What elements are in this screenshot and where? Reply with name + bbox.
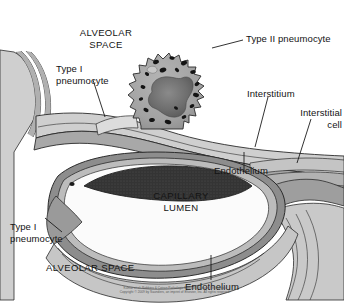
label-type-i-pneumocyte-top: Type I pneumocyte <box>56 63 132 86</box>
label-type-ii-pneumocyte: Type II pneumocyte <box>246 33 342 45</box>
label-interstitium: Interstitium <box>247 88 329 100</box>
alveolar-capillary-diagram: ALVEOLAR SPACE Type II pneumocyte Type I… <box>0 0 344 308</box>
copyright-credit: Kumar et al: Robbins & Cotran Pathologic… <box>82 286 268 294</box>
label-capillary-lumen: CAPILLARY LUMEN <box>134 190 228 213</box>
label-interstitial-cell: Interstitial cell <box>268 107 342 130</box>
label-endothelium-right: Endothelium <box>214 165 296 177</box>
lumen-dot <box>69 182 74 186</box>
label-type-i-pneumocyte-bottom: Type I pneumocyte <box>10 221 86 244</box>
label-alveolar-space-top: ALVEOLAR SPACE <box>58 27 154 50</box>
label-alveolar-space-bottom: ALVEOLAR SPACE <box>46 262 166 274</box>
type-ii-vacuole <box>147 66 157 73</box>
